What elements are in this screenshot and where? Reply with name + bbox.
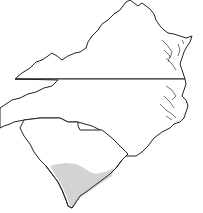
state-virginia	[15, 0, 192, 79]
map-canvas	[0, 0, 203, 213]
